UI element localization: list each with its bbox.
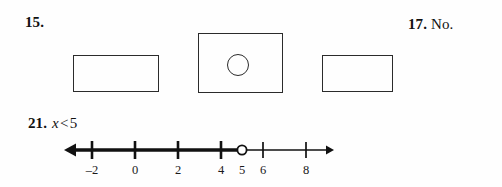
tick-label-6: 6 — [260, 163, 266, 177]
tick-label-minus-2: –2 — [85, 163, 99, 177]
figure-rectangle-left — [73, 55, 159, 92]
exercise-17-answer: No. — [431, 16, 453, 32]
exercise-15-number: 15. — [25, 15, 44, 30]
number-line-open-endpoint-at-5 — [237, 145, 246, 154]
tick-label-2: 2 — [175, 163, 181, 177]
exercise-17-number: 17. — [408, 16, 427, 32]
number-line-left-arrowhead — [64, 144, 76, 157]
tick-label-5: 5 — [239, 163, 245, 177]
figure-circle-inside-middle-rectangle — [227, 54, 249, 76]
number-line-svg: –2 0 2 4 5 6 8 — [0, 110, 502, 187]
exercise-17: 17.No. — [408, 15, 453, 33]
tick-label-8: 8 — [303, 163, 309, 177]
number-line-right-arrowhead — [326, 146, 334, 155]
figure-rectangle-right — [322, 55, 393, 92]
tick-label-4: 4 — [218, 163, 225, 177]
tick-label-0: 0 — [132, 163, 138, 177]
number-line-tick-labels: –2 0 2 4 5 6 8 — [85, 163, 309, 177]
number-line-graph: –2 0 2 4 5 6 8 — [0, 110, 502, 187]
worksheet-page: 15. 17.No. 21.x < 5 — [0, 0, 502, 187]
